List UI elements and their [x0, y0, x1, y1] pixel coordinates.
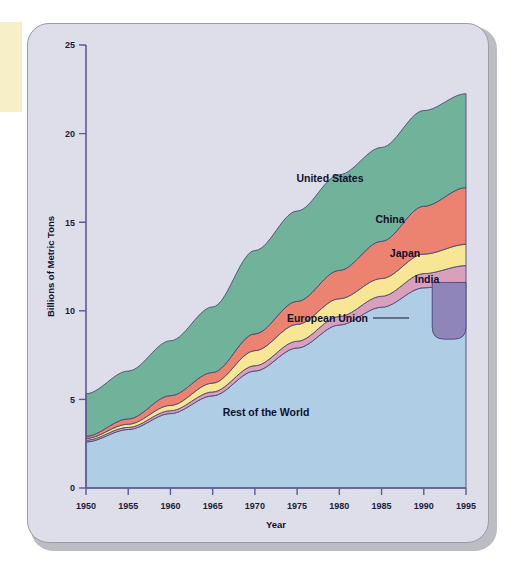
- area-series-group: [86, 94, 466, 488]
- y-tick-label: 25: [65, 40, 75, 50]
- x-tick-label: 1955: [118, 501, 138, 511]
- x-tick-label: 1970: [245, 501, 265, 511]
- stacked-area-chart: 0510152025 19501955196019651970197519801…: [28, 24, 489, 543]
- y-tick-label: 0: [70, 483, 75, 493]
- x-tick-label: 1960: [160, 501, 180, 511]
- page-edge-strip: [0, 22, 22, 112]
- y-tick-label: 20: [65, 129, 75, 139]
- x-tick-label: 1950: [76, 501, 96, 511]
- y-axis-ticks: 0510152025: [65, 40, 86, 493]
- x-tick-label: 1990: [414, 501, 434, 511]
- series-label-rest-of-world: Rest of the World: [223, 406, 310, 418]
- y-tick-label: 15: [65, 218, 75, 228]
- x-tick-label: 1980: [329, 501, 349, 511]
- series-label-european-union: European Union: [287, 312, 368, 324]
- x-tick-label: 1975: [287, 501, 307, 511]
- european-union-band: [432, 282, 466, 339]
- series-label-india: India: [415, 273, 440, 285]
- chart-card: 0510152025 19501955196019651970197519801…: [27, 23, 489, 543]
- series-label-china: China: [375, 213, 404, 225]
- x-tick-label: 1965: [203, 501, 223, 511]
- x-axis-ticks: 1950195519601965197019751980198519901995: [76, 488, 476, 511]
- x-axis-title: Year: [266, 519, 286, 530]
- x-tick-label: 1995: [456, 501, 476, 511]
- x-tick-label: 1985: [372, 501, 392, 511]
- y-tick-label: 10: [65, 306, 75, 316]
- y-axis-title: Billions of Metric Tons: [45, 216, 56, 317]
- y-tick-label: 5: [70, 395, 75, 405]
- chart-plot-area: 0510152025 19501955196019651970197519801…: [28, 24, 489, 543]
- series-label-united-states: United States: [296, 172, 363, 184]
- series-label-japan: Japan: [390, 247, 420, 259]
- european-union-area: [432, 282, 466, 339]
